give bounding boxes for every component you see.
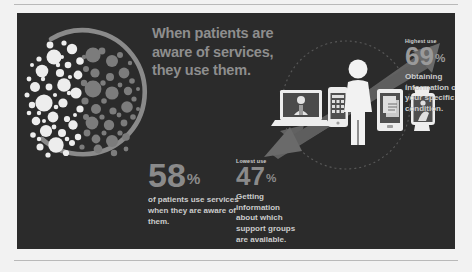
packed-circle-chart: [20, 21, 160, 179]
stat-value-58: 58%: [148, 160, 248, 191]
person-figure-icon: [344, 60, 372, 146]
infographic-panel: When patients are aware of services, the…: [17, 13, 455, 249]
stat-value-69: 69%: [405, 45, 455, 69]
bubble-group-aware: [25, 40, 84, 157]
stat-value-47: 47%: [236, 165, 306, 189]
stat-block-highest-use: Highest use 69% Obtaining information on…: [405, 38, 455, 115]
bubble-group-unaware: [79, 47, 140, 156]
stat-number: 69: [405, 41, 434, 71]
page-background: When patients are aware of services, the…: [0, 0, 472, 272]
stat-description-adoption: of patients use services when they are a…: [148, 195, 244, 227]
stat-description-highest: Obtaining information on your specific c…: [405, 72, 455, 115]
stat-block-adoption: 58% of patients use services when they a…: [148, 160, 248, 227]
top-divider-rule: [14, 4, 458, 5]
tablet-icon: [377, 89, 403, 131]
stat-description-lowest: Getting information about which support …: [236, 192, 302, 246]
bottom-divider-rule: [14, 260, 458, 261]
percent-symbol: %: [187, 170, 201, 187]
stat-block-lowest-use: Lowest use 47% Getting information about…: [236, 158, 306, 246]
percent-symbol: %: [435, 51, 445, 64]
percent-symbol: %: [266, 171, 276, 184]
stat-number: 58: [148, 156, 186, 194]
laptop-icon: [271, 90, 331, 126]
stat-number: 47: [236, 161, 265, 191]
